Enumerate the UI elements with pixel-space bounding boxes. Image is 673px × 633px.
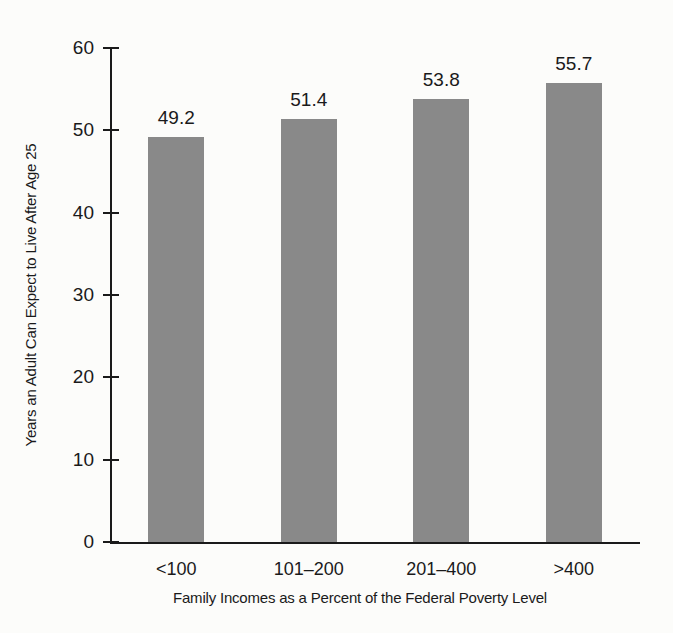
bar-value-label: 49.2 (116, 108, 236, 127)
x-axis-title: Family Incomes as a Percent of the Feder… (60, 589, 660, 606)
bar (413, 99, 469, 542)
x-axis-line (110, 542, 640, 544)
bar (148, 137, 204, 542)
y-axis-tick-label: 0 (36, 532, 94, 551)
y-axis-tick (103, 212, 119, 214)
x-axis-category-label: <100 (106, 560, 246, 578)
bar-value-label: 55.7 (514, 54, 634, 73)
y-axis-tick-label: 60 (36, 38, 94, 57)
bar-value-label: 51.4 (249, 90, 369, 109)
y-axis-tick (103, 459, 119, 461)
y-axis-tick (103, 47, 119, 49)
bar (281, 119, 337, 542)
y-axis-line (110, 48, 112, 544)
x-axis-category-label: 201–400 (371, 560, 511, 578)
y-axis-tick (103, 376, 119, 378)
x-axis-category-label: >400 (504, 560, 644, 578)
y-axis-tick (103, 294, 119, 296)
bar-chart: Years an Adult Can Expect to Live After … (0, 0, 673, 633)
y-axis-tick-label: 10 (36, 450, 94, 469)
bar (546, 83, 602, 542)
x-axis-category-label: 101–200 (239, 560, 379, 578)
y-axis-tick-labels: 0102030405060 (36, 0, 94, 633)
y-axis-tick-label: 30 (36, 285, 94, 304)
y-axis-tick-label: 50 (36, 120, 94, 139)
y-axis-tick (103, 129, 119, 131)
y-axis-tick-label: 40 (36, 203, 94, 222)
y-axis-tick (103, 541, 119, 543)
bar-value-label: 53.8 (381, 70, 501, 89)
y-axis-tick-label: 20 (36, 367, 94, 386)
